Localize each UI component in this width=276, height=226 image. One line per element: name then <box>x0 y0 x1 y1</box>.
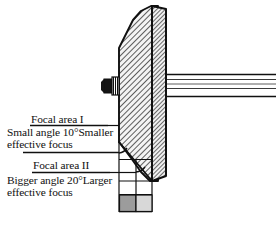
focal-spot-large-light <box>136 195 152 212</box>
label-focal-area-1-text: Focal area I <box>31 113 84 125</box>
label-focal-area-2: Focal area II <box>33 160 89 172</box>
diagram-canvas: Focal area I Small angle 10°Smaller effe… <box>0 0 276 226</box>
label-bigger-angle-line2: effective focus <box>7 187 112 199</box>
anode-shaft <box>160 74 276 98</box>
label-focal-area-2-text: Focal area II <box>33 159 89 171</box>
label-bigger-angle-focus: Bigger angle 20°Larger effective focus <box>7 175 112 198</box>
anode-rim <box>152 6 166 181</box>
label-small-angle-focus: Small angle 10°Smaller effective focus <box>7 127 113 150</box>
label-small-angle-line2: effective focus <box>7 139 113 151</box>
anode-stem-stub <box>101 77 119 95</box>
label-bigger-angle-line1: Bigger angle 20°Larger <box>7 175 112 187</box>
label-small-angle-line1: Small angle 10°Smaller <box>7 127 113 139</box>
label-focal-area-1: Focal area I <box>31 114 84 126</box>
focal-spot-small-dark <box>120 195 137 212</box>
